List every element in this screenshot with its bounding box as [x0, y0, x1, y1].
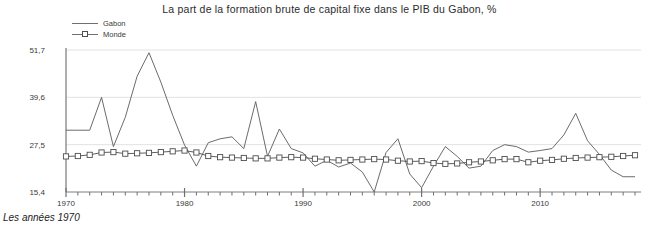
chart-figure: La part de la formation brute de capital…: [0, 0, 659, 231]
x-axis-tick-label: 2000: [413, 199, 431, 208]
x-axis-tick-label: 1990: [294, 199, 312, 208]
x-axis-tick-label: 2010: [531, 199, 549, 208]
x-axis-tick-label: 1970: [57, 199, 75, 208]
x-axis-labels: 19701980199020002010: [0, 0, 659, 231]
figure-caption: Les années 1970: [3, 212, 80, 223]
x-axis-tick-label: 1980: [176, 199, 194, 208]
